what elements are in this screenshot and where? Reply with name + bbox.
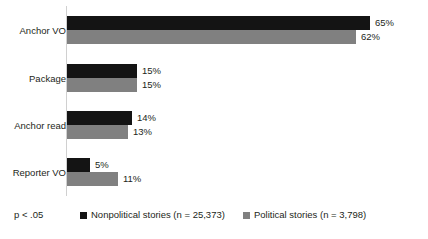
gray-square-icon <box>243 212 250 219</box>
bar-value-label: 14% <box>137 111 156 125</box>
plot-area: Anchor VO65%62%Package15%15%Anchor read1… <box>0 0 428 196</box>
bar-value-label: 5% <box>95 158 109 172</box>
bar-nonpolitical <box>67 64 137 78</box>
black-square-icon <box>80 212 87 219</box>
category-label: Anchor read <box>0 120 66 131</box>
bar-nonpolitical <box>67 111 132 125</box>
bar-value-label: 15% <box>142 78 161 92</box>
legend-item-label: Nonpolitical stories (n = 25,373) <box>91 209 225 221</box>
bar-political <box>67 78 137 92</box>
chart-footer: p < .05 Nonpolitical stories (n = 25,373… <box>0 205 428 229</box>
bar-political <box>67 125 128 139</box>
legend-item-political: Political stories (n = 3,798) <box>243 209 366 221</box>
bar-nonpolitical <box>67 158 90 172</box>
bar-political <box>67 172 118 186</box>
legend-item-label: Political stories (n = 3,798) <box>254 209 366 221</box>
bar-value-label: 11% <box>123 172 141 186</box>
bar-value-label: 15% <box>142 64 161 78</box>
category-label: Anchor VO <box>0 25 66 36</box>
category-label: Reporter VO <box>0 167 66 178</box>
bar-nonpolitical <box>67 16 370 30</box>
bar-chart: Anchor VO65%62%Package15%15%Anchor read1… <box>0 0 428 239</box>
legend-item-nonpolitical: Nonpolitical stories (n = 25,373) <box>80 209 225 221</box>
category-label: Package <box>0 73 66 84</box>
bar-value-label: 65% <box>375 16 394 30</box>
significance-note: p < .05 <box>14 209 43 221</box>
bar-value-label: 13% <box>133 125 152 139</box>
bar-political <box>67 30 356 44</box>
bar-value-label: 62% <box>361 30 380 44</box>
